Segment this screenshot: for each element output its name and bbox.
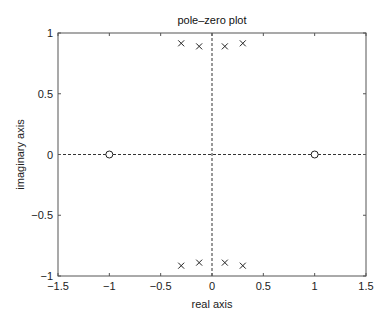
x-tick-label: 0.5 bbox=[256, 280, 271, 292]
x-tick-label: −1 bbox=[103, 280, 116, 292]
x-tick-labels: −1.5−1−0.500.511.5 bbox=[47, 280, 374, 292]
x-tick-label: 1.5 bbox=[358, 280, 373, 292]
zero-marker bbox=[311, 151, 318, 158]
y-tick-label: 0 bbox=[47, 149, 53, 161]
pole-zero-chart: pole–zero plot −1.5−1−0.500.511.5 −1−0.5… bbox=[0, 0, 390, 324]
pole-marker bbox=[222, 43, 228, 49]
pole-marker bbox=[178, 40, 184, 46]
y-tick-label: −1 bbox=[40, 270, 53, 282]
x-tick-label: 1 bbox=[312, 280, 318, 292]
y-tick-label: −0.5 bbox=[31, 209, 53, 221]
pole-marker bbox=[240, 263, 246, 269]
y-tick-labels: −1−0.500.51 bbox=[31, 27, 53, 282]
pole-marker bbox=[196, 43, 202, 49]
x-tick-label: 0 bbox=[209, 280, 215, 292]
pole-marker bbox=[196, 260, 202, 266]
x-axis-label: real axis bbox=[192, 298, 233, 310]
x-tick-label: −0.5 bbox=[150, 280, 172, 292]
y-axis-label: imaginary axis bbox=[14, 119, 26, 190]
reference-lines bbox=[58, 33, 366, 276]
pole-marker bbox=[178, 263, 184, 269]
pole-marker bbox=[240, 40, 246, 46]
chart-title: pole–zero plot bbox=[177, 14, 246, 26]
y-tick-label: 0.5 bbox=[38, 88, 53, 100]
pole-marker bbox=[222, 260, 228, 266]
y-tick-label: 1 bbox=[47, 27, 53, 39]
zero-marker bbox=[106, 151, 113, 158]
